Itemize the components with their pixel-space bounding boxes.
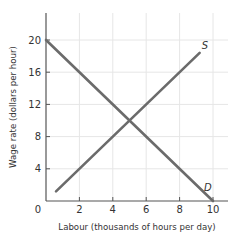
y-axis-title: Wage rate (dollars per hour) — [8, 46, 18, 168]
y-tick-label: 4 — [35, 163, 41, 174]
x-tick-label: 8 — [176, 204, 182, 215]
x-tick-label: 4 — [110, 204, 116, 215]
y-tick-label: 8 — [35, 131, 41, 142]
y-tick-label: 12 — [28, 99, 41, 110]
x-tick-label: 10 — [207, 204, 220, 215]
origin-label: 0 — [35, 204, 41, 215]
curve-s — [56, 53, 200, 191]
curve-label-d: D — [204, 182, 212, 193]
y-tick-label: 20 — [28, 35, 41, 46]
y-tick-label: 16 — [28, 67, 41, 78]
supply-demand-chart: 24681048121620 SD Labour (thousands of h… — [0, 0, 241, 237]
curve-label-s: S — [202, 40, 209, 51]
x-axis-title: Labour (thousands of hours per day) — [58, 222, 215, 232]
x-tick-label: 2 — [76, 204, 82, 215]
x-tick-label: 6 — [143, 204, 149, 215]
curves: SD — [46, 40, 213, 201]
